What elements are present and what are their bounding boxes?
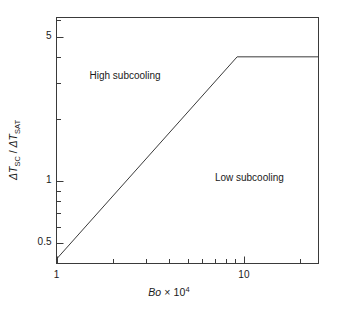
y-axis-title-sub-sat: SAT (13, 120, 22, 134)
y-tick-label-0.5: 0.5 (38, 236, 52, 247)
x-axis-title-symbol: Bo (148, 286, 161, 298)
subcooling-boundary-line (57, 57, 319, 259)
y-tick-label-1: 1 (46, 174, 52, 185)
y-axis-ticks (57, 21, 64, 244)
y-axis-title-separator: / (7, 147, 19, 156)
y-axis-title-delta-t-2: ΔT (7, 134, 19, 147)
x-tick-label-1: 1 (37, 269, 77, 280)
plot-canvas (0, 0, 338, 313)
x-tick-label-10: 10 (224, 269, 264, 280)
y-axis-title-sub-sc: SC (13, 156, 22, 166)
y-tick-label-5: 5 (46, 30, 52, 41)
x-axis-title: Bo × 104 (0, 286, 338, 298)
annotation-low-subcooling: Low subcooling (215, 172, 284, 183)
annotation-high-subcooling: High subcooling (90, 70, 161, 81)
y-axis-title-delta-t-1: ΔT (7, 167, 19, 180)
x-axis-title-exponent: 4 (185, 285, 189, 294)
y-axis-title-wrap: ΔTSC / ΔTSAT (0, 90, 26, 210)
y-axis-title: ΔTSC / ΔTSAT (7, 120, 19, 180)
chart-figure: 0.515 110 High subcoolingLow subcooling … (0, 0, 338, 313)
x-axis-ticks (58, 257, 301, 264)
x-axis-title-multiplier: × 10 (161, 286, 185, 298)
plot-frame (57, 18, 319, 264)
